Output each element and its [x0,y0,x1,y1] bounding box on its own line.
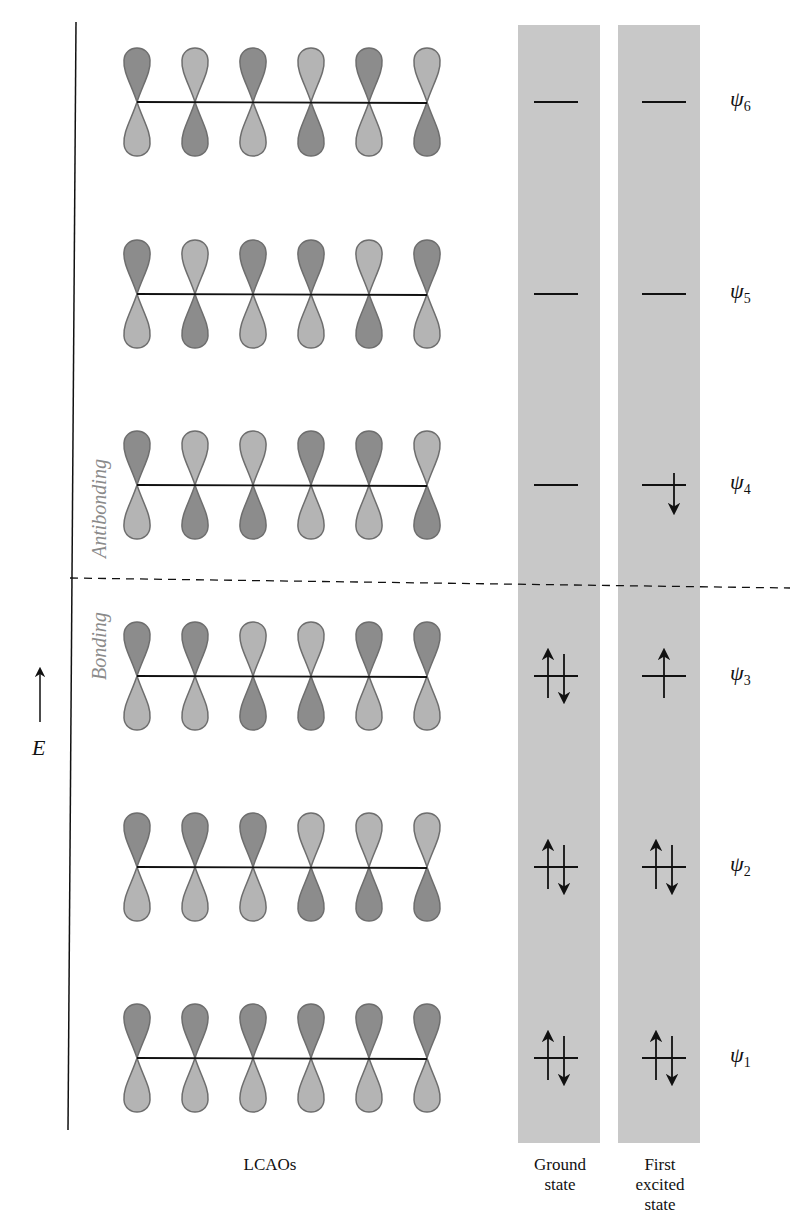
p-orbital-top-lobe [298,48,324,102]
p-orbital-top-lobe [240,1004,266,1058]
p-orbital-top-lobe [240,240,266,294]
mo-diagram [0,0,806,1231]
p-orbital-bottom-lobe [414,485,440,539]
p-orbital-bottom-lobe [240,676,266,730]
p-orbital-bottom-lobe [240,1058,266,1112]
p-orbital-top-lobe [124,240,150,294]
p-orbital-top-lobe [182,622,208,676]
p-orbital-top-lobe [356,431,382,485]
bonding-label: Bonding [88,612,111,680]
p-orbital-top-lobe [356,48,382,102]
p-orbital-top-lobe [124,1004,150,1058]
p-orbital-bottom-lobe [124,294,150,348]
p-orbital-bottom-lobe [182,102,208,156]
p-orbital-top-lobe [182,431,208,485]
sigma-bond-line [137,1058,427,1059]
sigma-bond-line [137,294,427,295]
p-orbital-top-lobe [414,240,440,294]
p-orbital-bottom-lobe [414,102,440,156]
p-orbital-bottom-lobe [414,294,440,348]
p-orbital-top-lobe [356,622,382,676]
p-orbital-bottom-lobe [298,1058,324,1112]
p-orbital-bottom-lobe [124,867,150,921]
sigma-bond-line [137,676,427,677]
p-orbital-top-lobe [124,622,150,676]
p-orbital-bottom-lobe [124,1058,150,1112]
p-orbital-bottom-lobe [356,102,382,156]
p-orbital-top-lobe [298,813,324,867]
sigma-bond-line [137,867,427,868]
p-orbital-top-lobe [414,813,440,867]
lcaos-column-label: LCAOs [220,1155,320,1175]
orbital-row-ψ6 [124,48,686,156]
p-orbital-top-lobe [240,48,266,102]
orbital-row-ψ5 [124,240,686,348]
p-orbital-top-lobe [356,1004,382,1058]
ground-state-band [518,25,600,1143]
p-orbital-bottom-lobe [240,867,266,921]
p-orbital-bottom-lobe [298,867,324,921]
p-orbital-top-lobe [298,622,324,676]
p-orbital-top-lobe [414,1004,440,1058]
p-orbital-bottom-lobe [124,676,150,730]
p-orbital-top-lobe [356,240,382,294]
p-orbital-top-lobe [414,622,440,676]
p-orbital-top-lobe [240,622,266,676]
p-orbital-top-lobe [414,48,440,102]
p-orbital-top-lobe [356,813,382,867]
orbital-label-ψ5: ψ5 [730,278,751,307]
p-orbital-bottom-lobe [182,485,208,539]
p-orbital-top-lobe [124,48,150,102]
sigma-bond-line [137,485,427,486]
p-orbital-top-lobe [298,240,324,294]
orbital-row-ψ3 [124,622,686,730]
p-orbital-top-lobe [298,1004,324,1058]
energy-axis-label: E [32,735,45,761]
p-orbital-top-lobe [182,813,208,867]
p-orbital-bottom-lobe [182,676,208,730]
p-orbital-bottom-lobe [124,102,150,156]
p-orbital-bottom-lobe [414,1058,440,1112]
p-orbital-top-lobe [124,431,150,485]
p-orbital-bottom-lobe [414,676,440,730]
orbital-label-ψ4: ψ4 [730,469,751,498]
p-orbital-bottom-lobe [298,485,324,539]
p-orbital-top-lobe [182,240,208,294]
antibonding-label: Antibonding [88,459,111,558]
p-orbital-bottom-lobe [356,294,382,348]
p-orbital-bottom-lobe [356,1058,382,1112]
p-orbital-bottom-lobe [240,294,266,348]
orbital-label-ψ6: ψ6 [730,86,751,115]
p-orbital-bottom-lobe [240,485,266,539]
orbital-label-ψ2: ψ2 [730,851,751,880]
p-orbital-top-lobe [298,431,324,485]
p-orbital-top-lobe [414,431,440,485]
p-orbital-bottom-lobe [182,294,208,348]
p-orbital-top-lobe [124,813,150,867]
excited-state-label: First excited state [600,1155,720,1215]
orbital-row-ψ1 [124,1004,686,1112]
energy-axis-line [68,22,76,1130]
p-orbital-top-lobe [182,1004,208,1058]
p-orbital-top-lobe [240,431,266,485]
p-orbital-bottom-lobe [298,676,324,730]
p-orbital-bottom-lobe [356,676,382,730]
p-orbital-bottom-lobe [356,485,382,539]
p-orbital-top-lobe [240,813,266,867]
p-orbital-bottom-lobe [240,102,266,156]
p-orbital-top-lobe [182,48,208,102]
orbital-label-ψ1: ψ1 [730,1042,751,1071]
sigma-bond-line [137,102,427,103]
p-orbital-bottom-lobe [414,867,440,921]
orbital-row-ψ2 [124,813,686,921]
orbital-row-ψ4 [124,431,686,539]
p-orbital-bottom-lobe [298,294,324,348]
p-orbital-bottom-lobe [356,867,382,921]
excited-state-band [618,25,700,1143]
p-orbital-bottom-lobe [182,1058,208,1112]
p-orbital-bottom-lobe [124,485,150,539]
orbital-label-ψ3: ψ3 [730,660,751,689]
p-orbital-bottom-lobe [182,867,208,921]
p-orbital-bottom-lobe [298,102,324,156]
